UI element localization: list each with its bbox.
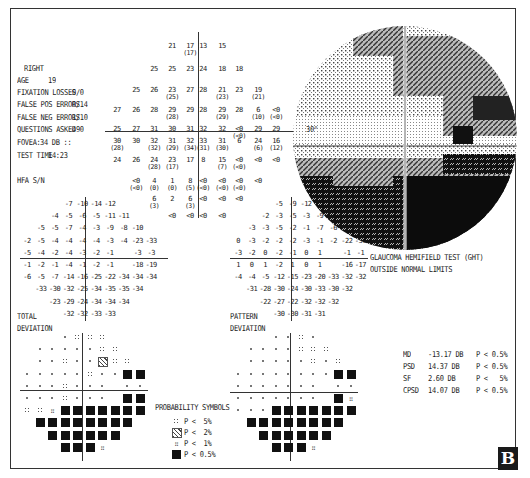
probability-symbol: ∷ — [309, 443, 318, 452]
threshold-db: 6 — [237, 137, 241, 145]
threshold-value: 23 — [183, 66, 197, 73]
deviation-value: -1 — [103, 250, 117, 257]
threshold-db: <0 — [168, 212, 175, 220]
probability-symbol — [98, 431, 107, 440]
threshold-repeat: (28) — [110, 145, 124, 151]
threshold-value: 28 — [147, 107, 161, 114]
legend-label: P < 2% — [184, 428, 211, 437]
probability-symbol — [61, 406, 70, 415]
deviation-value: -1 — [353, 250, 367, 257]
pattern-deviation-label: DEVIATION — [230, 324, 265, 333]
threshold-value: 31 — [183, 126, 197, 133]
deviation-value: -34 — [144, 274, 158, 281]
probability-symbol — [298, 346, 305, 353]
probability-symbol — [89, 397, 91, 399]
threshold-value: <0(<0) — [232, 157, 246, 170]
threshold-value: 24 — [110, 157, 124, 164]
deviation-value: -35 — [117, 286, 131, 293]
threshold-value: 18 — [232, 66, 246, 73]
probability-symbol — [124, 358, 131, 365]
probability-symbol — [62, 383, 69, 390]
probability-symbol — [86, 431, 95, 440]
probability-symbol — [86, 418, 95, 427]
deviation-value: -32 — [340, 286, 354, 293]
deviation-value: -2 — [258, 213, 272, 220]
probability-symbol — [89, 348, 91, 350]
questions-value: 490 — [72, 125, 84, 134]
deviation-value: 0 — [258, 250, 272, 257]
probability-symbol — [287, 348, 289, 350]
probability-symbol — [337, 385, 339, 387]
probability-symbol — [250, 385, 252, 387]
deviation-value: 1 — [258, 262, 272, 269]
probability-symbol — [73, 406, 82, 415]
deviation-value: -2 — [272, 250, 286, 257]
legend-symbol — [172, 450, 181, 459]
deviation-value: -22 — [258, 299, 272, 306]
deviation-value: -11 — [103, 213, 117, 220]
deviation-value: -3 — [299, 213, 313, 220]
index-probability: P < 0.5% — [476, 362, 507, 371]
probability-symbol — [250, 373, 252, 375]
threshold-repeat: (30) — [215, 145, 229, 151]
probability-symbol — [98, 406, 107, 415]
probability-symbol — [275, 397, 277, 399]
deviation-value: 1 — [231, 262, 245, 269]
deviation-value: -4 — [48, 238, 62, 245]
threshold-value: 29 — [183, 107, 197, 114]
probability-symbol — [24, 407, 31, 414]
probability-symbol — [334, 418, 343, 427]
threshold-value: 6 — [232, 138, 246, 145]
threshold-db: 25 — [168, 65, 175, 73]
index-probability: P < 0.5% — [476, 386, 507, 395]
threshold-db: <0 — [254, 177, 261, 185]
index-value: 14.37 DB — [428, 362, 459, 371]
threshold-db: 8 — [201, 156, 205, 164]
threshold-db: <0 — [254, 156, 261, 164]
probability-symbol — [250, 360, 252, 362]
deviation-value: -23 — [130, 238, 144, 245]
deviation-value: -29 — [61, 299, 75, 306]
deviation-value: -31 — [245, 286, 259, 293]
deviation-value: -31 — [313, 311, 327, 318]
probability-symbol — [334, 394, 343, 403]
threshold-value: 23(25) — [165, 87, 179, 100]
probability-symbol — [250, 397, 252, 399]
threshold-value: 27 — [183, 87, 197, 94]
deviation-value: -1 — [48, 262, 62, 269]
threshold-repeat: (0) — [147, 185, 161, 191]
probability-symbol — [87, 334, 94, 341]
threshold-value: 29 — [251, 126, 265, 133]
index-label: MD — [403, 350, 411, 359]
threshold-value: 28 — [196, 107, 210, 114]
threshold-value: <0 — [183, 213, 197, 220]
probability-symbol — [101, 397, 103, 399]
probability-symbol — [250, 348, 252, 350]
probability-symbol — [312, 385, 314, 387]
deviation-label: DEVIATION — [17, 324, 52, 333]
threshold-value: 29 — [269, 126, 283, 133]
legend-symbol — [172, 428, 182, 438]
threshold-repeat: (6) — [251, 145, 265, 151]
probability-symbol — [262, 373, 264, 375]
probability-symbol — [325, 360, 327, 362]
threshold-value: <0 — [215, 213, 229, 220]
threshold-value: <0(<0) — [269, 107, 283, 120]
deviation-value: -2 — [258, 238, 272, 245]
probability-symbol — [297, 418, 306, 427]
threshold-value: 18 — [215, 66, 229, 73]
threshold-db: 25 — [132, 86, 139, 94]
threshold-db: 15 — [218, 42, 225, 50]
threshold-db: 28 — [235, 106, 242, 114]
deviation-value: -4 — [34, 250, 48, 257]
deviation-value: -14 — [89, 201, 103, 208]
deviation-value: -34 — [130, 286, 144, 293]
legend-symbol — [173, 418, 180, 425]
probability-symbol — [275, 360, 277, 362]
deviation-value: -7 — [61, 225, 75, 232]
probability-symbol — [347, 370, 356, 379]
threshold-repeat: (<0) — [269, 114, 283, 120]
threshold-repeat: (<0) — [129, 185, 143, 191]
deviation-value: -33 — [313, 286, 327, 293]
probability-symbol — [139, 385, 141, 387]
